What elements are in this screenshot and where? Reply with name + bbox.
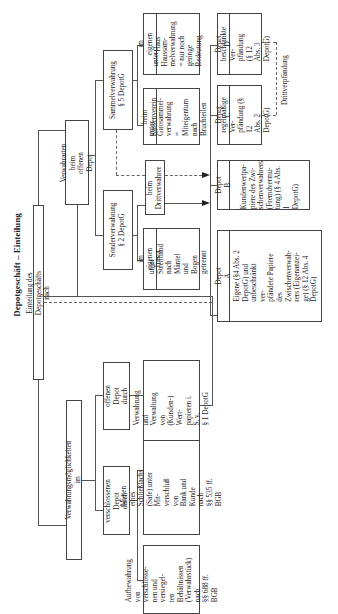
node-schliessfach: Mieten eines Schließfachs (Safe) unter M…	[143, 440, 200, 535]
node-drittverwahrer-text: beim Drittverwahrer	[146, 166, 163, 209]
connector	[38, 130, 65, 131]
label-drittverpfaendung: Drittverpfändung	[278, 50, 292, 110]
node-depot-a: Depot A Eigene (§4 Abs. 2 DepotG) und un…	[217, 230, 322, 322]
connector	[210, 315, 217, 316]
connector	[95, 80, 103, 81]
root-node-text: Einteilung des Depotgeschäfts nach	[26, 270, 52, 314]
node-eigener-tresor: im eigenen Tresor unter Streifband nach …	[143, 228, 200, 290]
connector	[210, 45, 211, 315]
node-offenes-depot-text: offenen Depot durch	[104, 385, 130, 407]
node-schliessfach-text: Mieten eines Schließfachs (Safe) unter M…	[120, 469, 223, 506]
connector	[38, 525, 66, 526]
connector	[38, 130, 39, 205]
connector	[38, 380, 39, 525]
node-aufbewahrung-text: Aufbewahrung von verschlosse- nen und ve…	[124, 557, 219, 601]
node-drittverwahrer: beim Drittverwahrer	[145, 160, 165, 215]
dashed-connector	[276, 42, 277, 115]
node-depot-b-body: Kundenwertpa- piere des Zwi- schenverwah…	[239, 161, 299, 209]
node-offenes-depot: offenen Depot durch	[103, 362, 130, 430]
connector	[95, 80, 96, 235]
connector	[200, 405, 212, 406]
connector	[44, 296, 212, 297]
node-depot-d: Depot D beschränkte Ver- pfändung (§ 12 …	[217, 13, 262, 75]
connector	[95, 510, 103, 511]
node-verwahrungsmoeglichkeiten: Verwahrungsmöglichkeiten im	[66, 400, 82, 560]
node-eigener-tresor-body: unter Streifband nach Mäntel und Bogen g…	[148, 244, 208, 274]
connector	[137, 45, 138, 125]
node-kassenverein: beim Kassenverein unter Girosammel- verw…	[143, 88, 200, 145]
connector	[95, 395, 96, 510]
node-depot-b: Depot B Kundenwertpa- piere des Zwi- sch…	[217, 160, 310, 210]
node-sammelverwahrung: Sammelverwahrung § 5 DepotG	[103, 50, 133, 130]
connector	[212, 296, 213, 406]
node-depot-d-body: beschränkte Ver- pfändung (§ 12 Abs. 3 D…	[220, 27, 272, 61]
node-aufbewahrung: Aufbewahrung von verschlosse- nen und ve…	[143, 545, 200, 614]
node-verwahrung-verwaltung-text: Verwahrung und Verwaltung von (Kunden-) …	[133, 390, 210, 425]
node-eigenes-haus-body: unter Haussam- melverwahrung = nur noch …	[152, 21, 204, 66]
node-sonderverwahrung: Sonderverwahrung § 2 DepotG	[103, 190, 133, 270]
node-verwahrungsmoeglichkeiten-text: Verwahrungsmöglichkeiten im	[65, 440, 82, 519]
node-verwahrarten-text: Verwahrarten beim offenen Depot	[60, 143, 94, 182]
node-depot-a-body: Eigene (§4 Abs. 2 DepotG) und unbeschrän…	[233, 250, 319, 302]
node-kassenverein-body: unter Girosammel- verwahrung = Miteigent…	[148, 98, 208, 136]
label-drittverpfaendung-text: Drittverpfändung	[281, 55, 290, 105]
connector	[95, 395, 103, 396]
dashed-connector	[165, 175, 202, 176]
dashed-connector	[116, 175, 145, 176]
arrow-right-icon	[202, 172, 210, 178]
node-sonderverwahrung-text: Sonderverwahrung § 2 DepotG	[109, 203, 126, 258]
connector	[77, 190, 78, 297]
dashed-connector	[262, 115, 276, 116]
dashed-connector	[44, 302, 212, 303]
diagram-title-text: Depotgeschäft – Einteilung	[12, 213, 22, 317]
connector	[82, 480, 95, 481]
arrow-right-icon	[202, 200, 210, 206]
root-node: Einteilung des Depotgeschäfts nach	[33, 205, 44, 380]
connector	[165, 203, 202, 204]
dashed-connector	[116, 130, 117, 175]
node-sammelverwahrung-text: Sammelverwahrung § 5 DepotG	[109, 61, 126, 119]
connector	[137, 205, 145, 206]
dashed-connector	[262, 42, 276, 43]
connector	[95, 235, 103, 236]
node-verwahrarten: Verwahrarten beim offenen Depot	[65, 120, 89, 205]
node-eigenes-haus: im eigenen Haus unter Haussam- melverwah…	[143, 13, 200, 75]
node-depot-c: Depot C regelmäßige Ver- pfändung (§ 12 …	[217, 85, 262, 145]
